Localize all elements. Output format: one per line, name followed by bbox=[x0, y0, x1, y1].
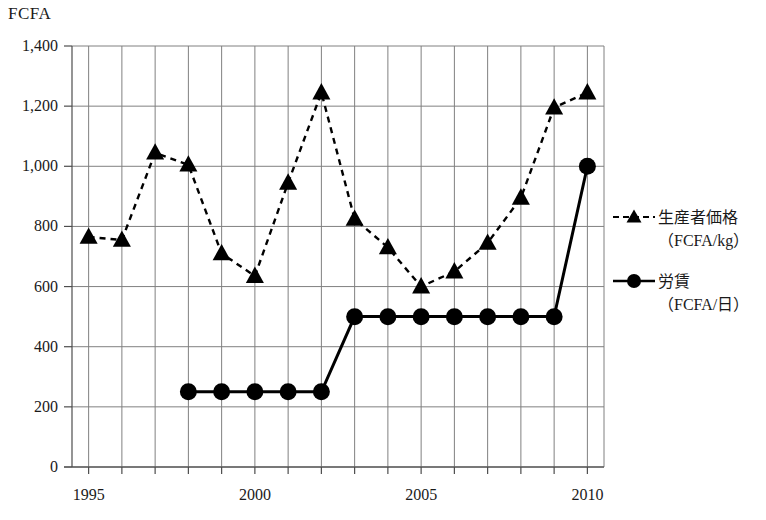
y-tick-label: 800 bbox=[0, 217, 58, 235]
legend-label-producer-price-main: 生産者価格 bbox=[658, 209, 738, 226]
y-tick-label: 600 bbox=[0, 278, 58, 296]
chart-legend: 生産者価格 （FCFA/kg） 労賃 （FCFA/日） bbox=[612, 206, 766, 334]
y-tick-label: 0 bbox=[0, 458, 58, 476]
y-tick-label: 200 bbox=[0, 398, 58, 416]
x-tick-label: 2005 bbox=[405, 486, 437, 504]
chart-figure: FCFA 02004006008001,0001,2001,400 199520… bbox=[0, 0, 766, 520]
legend-label-wage-main: 労賃 bbox=[658, 273, 690, 290]
legend-sample-dashed-triangle bbox=[612, 208, 656, 226]
legend-label-wage-sub: （FCFA/日） bbox=[658, 293, 766, 316]
x-tick-label: 1995 bbox=[73, 486, 105, 504]
legend-label-producer-price-sub: （FCFA/kg） bbox=[658, 229, 766, 252]
y-tick-label: 1,200 bbox=[0, 97, 58, 115]
y-axis-unit-label: FCFA bbox=[8, 4, 51, 24]
y-tick-label: 1,000 bbox=[0, 157, 58, 175]
legend-sample-solid-circle bbox=[612, 272, 656, 290]
legend-label-producer-price: 生産者価格 （FCFA/kg） bbox=[658, 206, 766, 252]
x-tick-label: 2000 bbox=[239, 486, 271, 504]
y-tick-label: 1,400 bbox=[0, 37, 58, 55]
legend-entry-producer-price: 生産者価格 （FCFA/kg） bbox=[612, 206, 766, 252]
legend-entry-wage: 労賃 （FCFA/日） bbox=[612, 270, 766, 316]
x-tick-label: 2010 bbox=[571, 486, 603, 504]
y-tick-label: 400 bbox=[0, 338, 58, 356]
legend-label-wage: 労賃 （FCFA/日） bbox=[658, 270, 766, 316]
